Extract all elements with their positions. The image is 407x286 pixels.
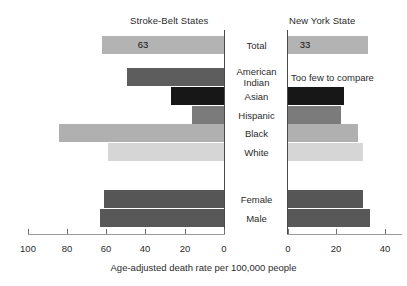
- note-too-few-to-compare: Too few to compare: [291, 72, 374, 83]
- bar-new-york-white: [288, 143, 363, 161]
- category-label-male: Male: [226, 213, 287, 224]
- baseline-left: [28, 234, 225, 235]
- bar-stroke-belt-hispanic: [192, 106, 224, 124]
- category-label-asian: Asian: [226, 91, 287, 102]
- bar-stroke-belt-male: [100, 209, 224, 227]
- bar-stroke-belt-white: [108, 143, 224, 161]
- tick-left-100: [28, 229, 29, 234]
- tick-label-right-40: 40: [372, 243, 398, 254]
- tick-label-right-20: 20: [323, 243, 349, 254]
- tick-label-left-80: 80: [54, 243, 80, 254]
- bar-stroke-belt-asian: [171, 87, 224, 105]
- bar-new-york-male: [288, 209, 370, 227]
- bar-new-york-hispanic: [288, 106, 341, 124]
- panel-title-new-york: New York State: [289, 15, 355, 26]
- tick-label-right-0: 0: [275, 243, 301, 254]
- tick-label-left-40: 40: [132, 243, 158, 254]
- category-label-white: White: [226, 147, 287, 158]
- tick-label-left-0: 0: [211, 243, 237, 254]
- bar-new-york-black: [288, 124, 358, 142]
- tick-right-0: [288, 229, 289, 234]
- category-label-american-indian-line1: American: [226, 66, 287, 77]
- tick-left-80: [67, 229, 68, 234]
- tick-left-0: [224, 229, 225, 234]
- bar-new-york-female: [288, 190, 363, 208]
- category-label-black: Black: [226, 128, 287, 139]
- category-label-total: Total: [226, 40, 287, 51]
- bar-stroke-belt-american-indian: [127, 68, 224, 86]
- bar-value-stroke-belt-total: 63: [130, 36, 156, 54]
- bar-stroke-belt-female: [104, 190, 224, 208]
- tick-right-40: [385, 229, 386, 234]
- tick-left-40: [145, 229, 146, 234]
- tick-label-left-60: 60: [93, 243, 119, 254]
- panel-title-stroke-belt: Stroke-Belt States: [130, 15, 208, 26]
- chart-container: Stroke-Belt States New York State 63 33 …: [0, 0, 407, 286]
- x-axis-label: Age-adjusted death rate per 100,000 peop…: [0, 262, 407, 273]
- bar-stroke-belt-black: [59, 124, 224, 142]
- tick-label-left-20: 20: [172, 243, 198, 254]
- category-label-american-indian: American Indian: [226, 66, 287, 88]
- bar-value-new-york-total: 33: [293, 36, 317, 54]
- tick-label-left-100: 100: [15, 243, 41, 254]
- baseline-right: [287, 234, 402, 235]
- tick-right-20: [336, 229, 337, 234]
- tick-left-20: [185, 229, 186, 234]
- bar-stroke-belt-total: [102, 36, 224, 54]
- category-label-female: Female: [226, 194, 287, 205]
- category-label-american-indian-line2: Indian: [226, 77, 287, 88]
- tick-left-60: [106, 229, 107, 234]
- bar-new-york-asian: [288, 87, 344, 105]
- category-label-hispanic: Hispanic: [226, 110, 287, 121]
